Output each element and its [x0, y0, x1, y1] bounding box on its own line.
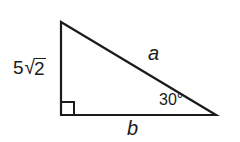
angle-label: 30° [159, 92, 183, 108]
right-angle-marker-icon [61, 102, 74, 115]
hypotenuse-label: a [148, 43, 159, 63]
radicand-value: 2 [34, 58, 46, 78]
triangle-outline [61, 22, 216, 115]
vertical-leg-coefficient: 5 [13, 57, 24, 78]
horizontal-leg-label: b [127, 118, 138, 138]
radical-expression: √2 [24, 57, 46, 77]
geometry-figure: 5√2 a b 30° [0, 0, 240, 142]
vertical-leg-label: 5√2 [13, 57, 46, 77]
